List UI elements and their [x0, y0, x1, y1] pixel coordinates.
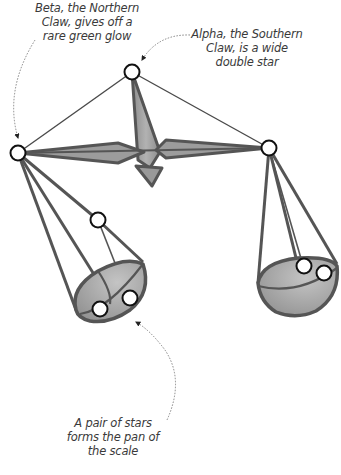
- alpha-annotation-line-3: double star: [182, 55, 312, 69]
- star-beta: [11, 146, 26, 161]
- star-alpha: [262, 141, 277, 156]
- pan-annotation: A pair of stars forms the pan of the sca…: [58, 416, 168, 458]
- beta-annotation-line-2: Claw, gives off a: [22, 15, 152, 29]
- beta-annotation: Beta, the Northern Claw, gives off a rar…: [22, 1, 152, 43]
- scale-center-post: [132, 72, 162, 186]
- pan-arrow: [136, 322, 176, 420]
- star-left-pan-2: [123, 291, 138, 306]
- beta-arrow: [14, 40, 35, 138]
- star-left-mid: [91, 213, 106, 228]
- pan-annotation-line-3: the scale: [58, 444, 168, 458]
- alpha-annotation: Alpha, the Southern Claw, is a wide doub…: [182, 27, 312, 69]
- alpha-annotation-line-2: Claw, is a wide: [182, 41, 312, 55]
- alpha-annotation-line-1: Alpha, the Southern: [182, 27, 312, 41]
- star-right-pan-1: [297, 259, 312, 274]
- star-top: [125, 65, 140, 80]
- beta-annotation-line-1: Beta, the Northern: [22, 1, 152, 15]
- libra-scale-diagram: [0, 0, 341, 475]
- pan-annotation-line-1: A pair of stars: [58, 416, 168, 430]
- beta-annotation-line-3: rare green glow: [22, 29, 152, 43]
- star-left-pan-1: [93, 302, 108, 317]
- star-right-pan-2: [317, 266, 332, 281]
- pan-annotation-line-2: forms the pan of: [58, 430, 168, 444]
